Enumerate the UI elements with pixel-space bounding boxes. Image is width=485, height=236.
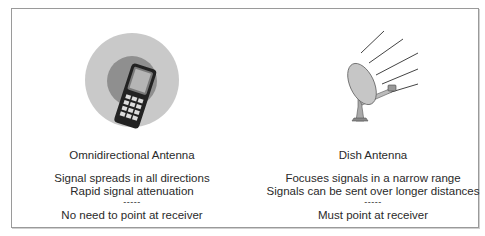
omnidirectional-panel: Omnidirectional Antenna Signal spreads i… xyxy=(12,9,252,227)
description-line: Rapid signal attenuation xyxy=(12,185,252,198)
panel-title: Omnidirectional Antenna xyxy=(12,149,252,162)
panel-footer: No need to point at receiver xyxy=(12,209,252,222)
panel-title: Dish Antenna xyxy=(252,149,485,162)
description-line: Focuses signals in a narrow range xyxy=(252,172,485,185)
omnidirectional-antenna-illustration xyxy=(75,25,195,135)
dish-antenna-illustration xyxy=(332,23,442,133)
separator: ----- xyxy=(12,197,252,207)
description-line: Signals can be sent over longer distance… xyxy=(252,185,485,198)
separator: ----- xyxy=(252,197,485,207)
diagram-frame: Omnidirectional Antenna Signal spreads i… xyxy=(11,8,479,228)
description-line: Signal spreads in all directions xyxy=(12,172,252,185)
panel-footer: Must point at receiver xyxy=(252,209,485,222)
dish-panel: Dish Antenna Focuses signals in a narrow… xyxy=(252,9,485,227)
